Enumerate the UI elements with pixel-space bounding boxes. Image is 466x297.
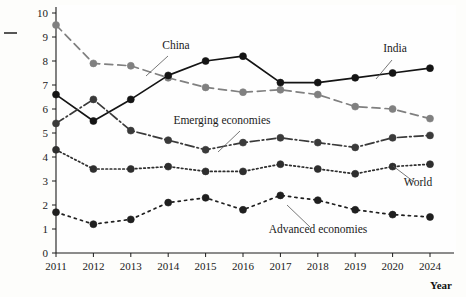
- series-label-china: China: [162, 39, 189, 51]
- x-axis-tick-label: 2018: [307, 260, 330, 272]
- data-point: [427, 214, 434, 221]
- data-point: [352, 103, 359, 110]
- data-point: [202, 146, 209, 153]
- data-point: [53, 146, 60, 153]
- data-point: [427, 132, 434, 139]
- data-point: [165, 199, 172, 206]
- data-point: [240, 139, 247, 146]
- y-axis-tick-label: 6: [43, 103, 49, 115]
- y-axis-tick-label: 0: [43, 247, 49, 259]
- x-axis-title: Year: [430, 279, 452, 291]
- y-axis-tick-label: 8: [43, 55, 49, 67]
- x-axis-tick-label: 2011: [45, 260, 67, 272]
- data-point: [53, 91, 60, 98]
- x-axis-tick-label: 2014: [157, 260, 180, 272]
- data-point: [90, 96, 97, 103]
- y-axis-tick-label: 2: [43, 199, 49, 211]
- data-point: [202, 194, 209, 201]
- data-point: [277, 134, 284, 141]
- data-point: [277, 192, 284, 199]
- data-point: [389, 106, 396, 113]
- series-label-india: India: [383, 42, 407, 54]
- x-axis-tick-label: 2024: [419, 260, 442, 272]
- data-point: [389, 211, 396, 218]
- data-point: [427, 65, 434, 72]
- series-label-advanced-economies: Advanced economies: [269, 223, 368, 235]
- data-point: [127, 216, 134, 223]
- data-point: [53, 120, 60, 127]
- data-point: [127, 62, 134, 69]
- y-axis-tick-label: 3: [43, 175, 49, 187]
- data-point: [389, 70, 396, 77]
- x-axis-tick-label: 2020: [382, 260, 405, 272]
- data-point: [314, 139, 321, 146]
- x-axis-tick-label: 2017: [269, 260, 292, 272]
- data-point: [240, 53, 247, 60]
- x-axis-tick-label: 2013: [120, 260, 143, 272]
- y-axis-tick-label: 7: [43, 79, 49, 91]
- y-axis-tick-label: 1: [43, 223, 49, 235]
- data-point: [427, 161, 434, 168]
- data-point: [389, 163, 396, 170]
- data-point: [127, 96, 134, 103]
- data-point: [314, 79, 321, 86]
- data-point: [202, 58, 209, 65]
- chart-figure: 0123456789102011201220132014201520162017…: [0, 0, 466, 297]
- data-point: [314, 166, 321, 173]
- data-point: [240, 168, 247, 175]
- data-point: [90, 221, 97, 228]
- data-point: [240, 89, 247, 96]
- x-axis-tick-label: 2015: [195, 260, 218, 272]
- data-point: [90, 166, 97, 173]
- data-point: [352, 144, 359, 151]
- data-point: [165, 163, 172, 170]
- data-point: [53, 22, 60, 29]
- x-axis-tick-label: 2012: [82, 260, 104, 272]
- data-point: [352, 170, 359, 177]
- data-point: [277, 86, 284, 93]
- data-point: [314, 91, 321, 98]
- x-axis-tick-label: 2019: [344, 260, 367, 272]
- y-axis-tick-label: 9: [43, 31, 49, 43]
- series-label-world: World: [404, 176, 433, 188]
- data-point: [314, 197, 321, 204]
- y-axis-tick-label: 10: [37, 7, 49, 19]
- data-point: [240, 206, 247, 213]
- data-point: [165, 72, 172, 79]
- data-point: [352, 74, 359, 81]
- data-point: [165, 137, 172, 144]
- data-point: [277, 161, 284, 168]
- x-axis-tick-label: 2016: [232, 260, 255, 272]
- series-label-emerging-economies: Emerging economies: [173, 114, 271, 127]
- y-axis-tick-label: 5: [43, 127, 49, 139]
- data-point: [127, 127, 134, 134]
- data-point: [202, 84, 209, 91]
- data-point: [352, 206, 359, 213]
- data-point: [389, 134, 396, 141]
- data-point: [202, 168, 209, 175]
- data-point: [53, 209, 60, 216]
- data-point: [90, 60, 97, 67]
- data-point: [277, 79, 284, 86]
- data-point: [90, 118, 97, 125]
- y-axis-tick-label: 4: [43, 151, 49, 163]
- data-point: [427, 115, 434, 122]
- line-chart: 0123456789102011201220132014201520162017…: [0, 0, 466, 297]
- data-point: [127, 166, 134, 173]
